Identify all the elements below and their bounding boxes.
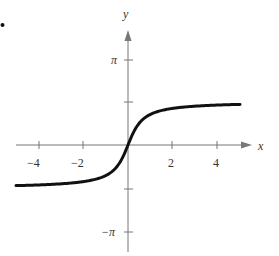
x-tick-label: −2 — [71, 156, 84, 170]
bullet-marker — [1, 23, 5, 27]
x-tick-label: 4 — [213, 156, 219, 170]
y-axis-arrow-icon — [125, 30, 132, 41]
x-axis-label: x — [257, 139, 264, 153]
y-tick-label-neg-pi: −π — [101, 225, 116, 239]
x-axis-arrow-icon — [241, 142, 252, 149]
y-axis-label: y — [122, 7, 129, 21]
x-tick-label: 2 — [168, 156, 174, 170]
y-tick-label-pi: π — [111, 53, 118, 67]
chart: x y −4 −2 2 4 π −π — [0, 0, 279, 256]
x-tick-label: −4 — [27, 156, 40, 170]
